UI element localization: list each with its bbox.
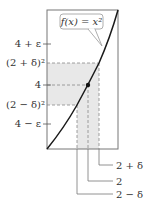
label-4-minus-epsilon: 4 − ε xyxy=(15,118,41,129)
label-2-plus-delta: 2 + δ xyxy=(116,160,143,171)
label-2: 2 xyxy=(116,176,122,187)
function-callout: f(x) = x² xyxy=(60,14,103,46)
label-4: 4 xyxy=(35,79,41,90)
label-2-plus-delta-squared: (2 + δ)² xyxy=(6,57,45,68)
label-4-plus-epsilon: 4 + ε xyxy=(15,38,41,49)
label-2-minus-delta: 2 − δ xyxy=(116,189,143,200)
x-axis-labels: 2 + δ 2 2 − δ xyxy=(116,160,143,200)
epsilon-delta-diagram: f(x) = x² 4 + ε (2 + δ)² 4 (2 − δ)² 4 − … xyxy=(0,0,152,206)
point-2-4 xyxy=(86,83,90,87)
label-2-minus-delta-squared: (2 − δ)² xyxy=(6,99,45,110)
x-leader-lines xyxy=(77,149,113,194)
function-label: f(x) = x² xyxy=(60,16,103,27)
y-axis-labels: 4 + ε (2 + δ)² 4 (2 − δ)² 4 − ε xyxy=(6,38,45,129)
